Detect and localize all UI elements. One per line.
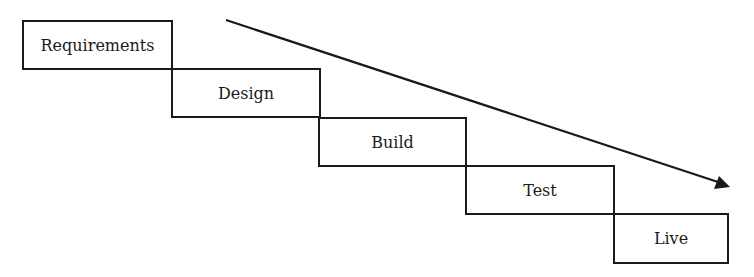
waterfall-diagram: Requirements Design Build Test Live xyxy=(0,0,754,277)
progress-arrow-icon xyxy=(0,0,754,277)
